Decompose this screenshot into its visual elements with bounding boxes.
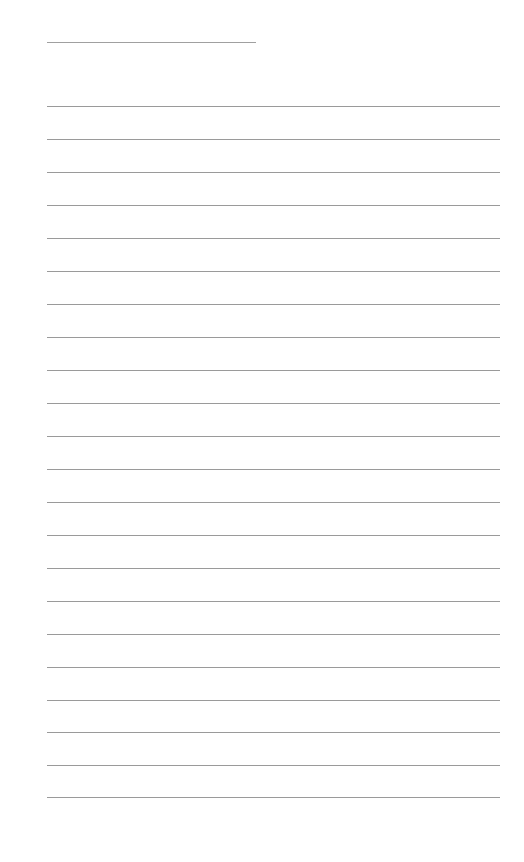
ruled-line bbox=[47, 205, 500, 206]
ruled-line bbox=[47, 765, 500, 766]
header-title-line bbox=[47, 42, 256, 43]
ruled-line bbox=[47, 337, 500, 338]
ruled-line bbox=[47, 304, 500, 305]
ruled-line bbox=[47, 535, 500, 536]
ruled-line bbox=[47, 271, 500, 272]
ruled-line bbox=[47, 469, 500, 470]
ruled-line bbox=[47, 139, 500, 140]
lined-paper-page bbox=[0, 0, 524, 862]
ruled-line bbox=[47, 502, 500, 503]
ruled-line bbox=[47, 732, 500, 733]
ruled-line bbox=[47, 568, 500, 569]
ruled-line bbox=[47, 601, 500, 602]
ruled-line bbox=[47, 700, 500, 701]
ruled-line bbox=[47, 172, 500, 173]
ruled-line bbox=[47, 106, 500, 107]
ruled-line bbox=[47, 667, 500, 668]
ruled-line bbox=[47, 238, 500, 239]
ruled-line bbox=[47, 436, 500, 437]
ruled-line bbox=[47, 403, 500, 404]
ruled-line bbox=[47, 797, 500, 798]
ruled-line bbox=[47, 370, 500, 371]
ruled-line bbox=[47, 634, 500, 635]
